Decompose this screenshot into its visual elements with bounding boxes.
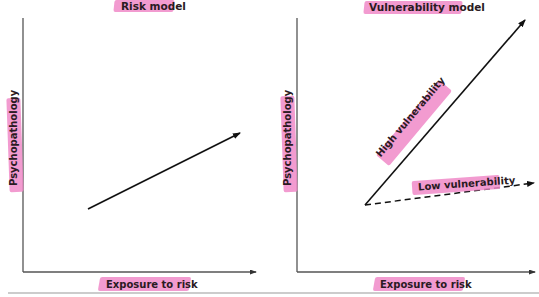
risk-model-panel <box>23 18 256 272</box>
vulnerability-y-axis-label: Psychopathology <box>283 90 293 186</box>
risk-line-arrow <box>88 133 240 209</box>
risk-x-axis-label: Exposure to risk <box>106 280 198 290</box>
risk-model-title: Risk model <box>121 1 186 12</box>
vulnerability-model-panel <box>297 18 535 272</box>
vulnerability-model-title: Vulnerability model <box>369 2 485 13</box>
vulnerability-x-axis-label: Exposure to risk <box>380 280 472 290</box>
risk-y-axis-label: Psychopathology <box>9 90 19 186</box>
diagram-canvas <box>0 0 539 297</box>
